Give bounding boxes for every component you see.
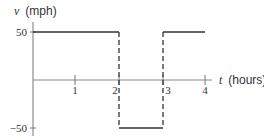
x-tick-label-1: 1: [72, 84, 78, 96]
x-tick-label-4: 4: [202, 84, 208, 96]
x-tick-label-3: 3: [165, 84, 171, 96]
y-tick-label-neg50: −50: [10, 122, 28, 134]
y-tick-label-50: 50: [16, 26, 28, 38]
x-tick-label-2: 2: [112, 84, 118, 96]
y-axis-label: v (mph): [14, 4, 57, 18]
x-axis-label: t (hours): [219, 73, 264, 87]
velocity-chart: v (mph) 50 −50 1 2 3 4 t (hours): [0, 0, 264, 139]
